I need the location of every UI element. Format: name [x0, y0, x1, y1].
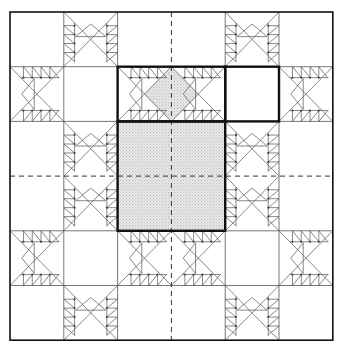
feather-unit-v — [64, 286, 118, 341]
feather-unit-h — [10, 231, 64, 286]
quilt-canvas — [0, 0, 344, 354]
feather-unit-v — [64, 12, 118, 67]
feather-unit-h — [118, 231, 172, 286]
feather-unit-h — [10, 67, 64, 122]
feather-unit-v — [225, 286, 279, 341]
feather-unit-v — [225, 12, 279, 67]
center-dashed-lines — [10, 12, 333, 340]
feather-unit-v — [64, 121, 118, 176]
feather-unit-h — [279, 231, 333, 286]
quilt-diagram — [0, 0, 344, 354]
feather-unit-h — [171, 231, 225, 286]
feather-unit-v — [225, 176, 279, 231]
small-square-outline — [225, 67, 279, 122]
feather-unit-v — [64, 176, 118, 231]
feather-unit-v — [225, 121, 279, 176]
feather-unit-h — [279, 67, 333, 122]
